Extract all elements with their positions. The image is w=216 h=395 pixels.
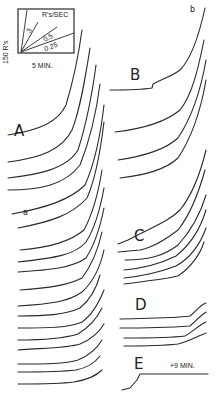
panel-label-a: A xyxy=(14,124,24,139)
left-record-10 xyxy=(20,232,102,290)
panel-label-c: C xyxy=(134,229,144,244)
vertical-scale-label: 150 R's xyxy=(2,40,9,64)
right-record-14 xyxy=(124,333,206,346)
panel-e-time-note: +9 MIN. xyxy=(170,362,195,369)
right-record-12 xyxy=(120,312,206,328)
right-record-10 xyxy=(124,242,204,284)
left-record-12 xyxy=(18,275,100,316)
panel-label-e: E xyxy=(134,357,143,372)
panel-label-b: B xyxy=(130,68,140,83)
panel-label-d: D xyxy=(135,298,147,313)
right-record-1 xyxy=(110,8,205,90)
annotation-a: a xyxy=(23,209,28,217)
horizontal-scale-label: 5 MIN. xyxy=(32,62,53,69)
cumulative-record-figure xyxy=(0,0,216,395)
left-record-11 xyxy=(18,250,104,306)
right-column-records xyxy=(110,8,208,390)
annotation-b: b xyxy=(190,6,195,14)
left-column-records xyxy=(8,30,104,384)
right-record-5 xyxy=(118,150,206,244)
left-record-16 xyxy=(18,340,102,364)
right-record-13 xyxy=(124,322,206,338)
left-record-14 xyxy=(18,308,102,340)
right-record-11 xyxy=(120,303,206,319)
right-record-15 xyxy=(122,374,208,390)
rate-units-label: R's/SEC xyxy=(42,11,68,18)
